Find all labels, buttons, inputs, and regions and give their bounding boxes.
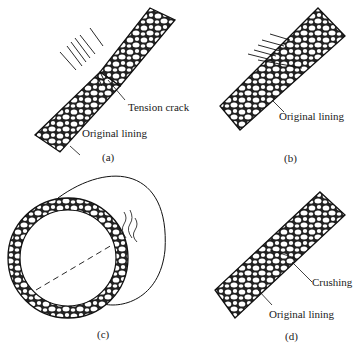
figure-drawing [0,0,354,347]
caption-d: (d) [285,330,298,342]
original-lining-label-b: Original lining [279,110,344,122]
caption-c: (c) [97,328,109,340]
original-lining-label-d: Original lining [269,308,334,320]
original-lining-label-a: Original lining [82,127,147,139]
caption-a: (a) [102,151,114,163]
panel-c-drawing [8,176,165,318]
panel-d-drawing [215,192,345,318]
crushing-label: Crushing [312,276,352,288]
tension-crack-label: Tension crack [128,101,189,113]
caption-b: (b) [284,152,297,164]
